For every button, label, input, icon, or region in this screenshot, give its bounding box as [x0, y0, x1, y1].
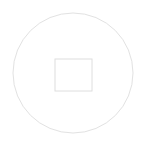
outer-circle-shape — [13, 13, 133, 133]
vector-figure — [0, 0, 146, 146]
drawing-canvas — [0, 0, 146, 146]
inner-square-shape — [55, 59, 92, 91]
